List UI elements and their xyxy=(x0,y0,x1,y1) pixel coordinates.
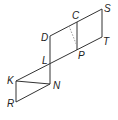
label-T: T xyxy=(103,36,110,47)
label-C: C xyxy=(72,10,80,21)
segment-RN xyxy=(16,84,50,102)
label-N: N xyxy=(53,80,61,91)
geometry-diagram: S T C P D L K N R xyxy=(0,0,118,120)
label-R: R xyxy=(7,98,14,109)
segment-KN xyxy=(16,81,50,84)
label-D: D xyxy=(41,32,48,43)
label-K: K xyxy=(7,75,15,86)
segment-KT xyxy=(16,37,102,81)
label-L: L xyxy=(42,55,48,66)
label-P: P xyxy=(78,50,85,61)
dashed-segment xyxy=(69,26,77,46)
label-S: S xyxy=(104,3,111,14)
